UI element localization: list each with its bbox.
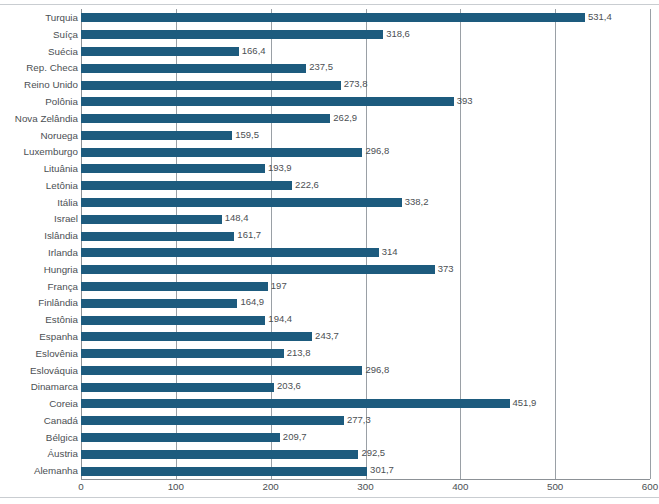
bar-nova-zel-ndia [81,114,330,123]
category-label: Bélgica [0,429,78,447]
bar-value-label: 194,4 [268,312,292,325]
bar-rows: 531,4318,6166,4237,5273,8393262,9159,529… [81,9,650,479]
bar-row: 292,5 [81,445,650,463]
bar-row: 243,7 [81,328,650,346]
category-label: França [0,278,78,296]
category-label: Turquia [0,9,78,27]
bar-row: 301,7 [81,462,650,480]
bar-value-label: 314 [382,245,398,258]
category-label: Israel [0,210,78,228]
x-tick-label-200: 200 [262,481,278,492]
category-label: Nova Zelândia [0,110,78,128]
bar-row: 314 [81,244,650,262]
bar-row: 338,2 [81,194,650,212]
bar-row: 161,7 [81,227,650,245]
bar-row: 148,4 [81,210,650,228]
bar-let-nia [81,181,292,190]
bar-eslov-nia [81,349,284,358]
bar--ustria [81,450,358,459]
bar-value-label: 222,6 [295,178,319,191]
category-label: Letônia [0,177,78,195]
bar-est-nia [81,316,265,325]
x-tick-label-500: 500 [547,481,563,492]
bar-su-cia [81,47,239,56]
bar-row: 164,9 [81,294,650,312]
category-label: Suíça [0,26,78,44]
bar-value-label: 209,7 [283,430,307,443]
bar-row: 296,8 [81,143,650,161]
category-axis-labels: TurquiaSuíçaSuéciaRep. ChecaReino UnidoP… [0,9,78,479]
category-label: Eslovênia [0,345,78,363]
category-label: Polônia [0,93,78,111]
bar-value-label: 148,4 [225,211,249,224]
bar-row: 194,4 [81,311,650,329]
bar-row: 197 [81,278,650,296]
bar-eslov-quia [81,366,362,375]
bar-value-label: 193,9 [268,161,292,174]
bar-row: 222,6 [81,177,650,195]
x-tick-label-0: 0 [78,481,83,492]
category-label: Espanha [0,328,78,346]
bar-value-label: 393 [457,94,473,107]
bar-noruega [81,131,232,140]
bar-value-label: 237,5 [309,60,333,73]
bar-row: 373 [81,261,650,279]
bar-value-label: 203,6 [277,379,301,392]
bar-value-label: 166,4 [242,44,266,57]
bar-pol-nia [81,97,454,106]
bar-row: 451,9 [81,395,650,413]
bar-hungria [81,265,435,274]
bar-value-label: 273,8 [344,77,368,90]
bar-dinamarca [81,383,274,392]
category-label: Itália [0,194,78,212]
bar-value-label: 197 [271,279,287,292]
bar-value-label: 318,6 [386,27,410,40]
category-label: Canadá [0,412,78,430]
bar-value-label: 164,9 [240,295,264,308]
bar-value-label: 243,7 [315,329,339,342]
bar-alemanha [81,467,367,476]
bar-rep-checa [81,64,306,73]
bar-espanha [81,332,312,341]
category-label: Irlanda [0,244,78,262]
category-label: Rep. Checa [0,59,78,77]
bar-fran-a [81,282,268,291]
bar-value-label: 161,7 [237,228,261,241]
category-label: Suécia [0,43,78,61]
category-label: Luxemburgo [0,143,78,161]
category-label: Eslováquia [0,362,78,380]
bar-row: 203,6 [81,378,650,396]
x-axis-tick-labels: 0100200300400500600 [81,481,650,497]
bar-value-label: 159,5 [235,128,259,141]
bar-israel [81,215,222,224]
bar-row: 393 [81,93,650,111]
bar-value-label: 213,8 [287,346,311,359]
bar-value-label: 338,2 [405,195,429,208]
bar-reino-unido [81,81,341,90]
category-label: Coreia [0,395,78,413]
bar-irlanda [81,248,379,257]
plot-area: 531,4318,6166,4237,5273,8393262,9159,529… [81,9,650,479]
x-tick-label-600: 600 [642,481,658,492]
bar-b-lgica [81,433,280,442]
bar-row: 318,6 [81,26,650,44]
bar-value-label: 373 [438,262,454,275]
bar-row: 296,8 [81,362,650,380]
category-label: Noruega [0,127,78,145]
bar-row: 166,4 [81,43,650,61]
category-label: Finlândia [0,294,78,312]
bar-value-label: 277,3 [347,413,371,426]
gridline-600 [650,9,651,479]
category-label: Dinamarca [0,378,78,396]
category-label: Áustria [0,445,78,463]
bar-row: 277,3 [81,412,650,430]
chart-figure: TurquiaSuíçaSuéciaRep. ChecaReino UnidoP… [0,0,659,504]
bar-value-label: 531,4 [588,10,612,23]
bar-litu-nia [81,164,265,173]
x-tick-label-100: 100 [168,481,184,492]
category-label: Estônia [0,311,78,329]
category-label: Islândia [0,227,78,245]
category-label: Alemanha [0,462,78,480]
x-tick-label-400: 400 [452,481,468,492]
bar-value-label: 296,8 [365,144,389,157]
